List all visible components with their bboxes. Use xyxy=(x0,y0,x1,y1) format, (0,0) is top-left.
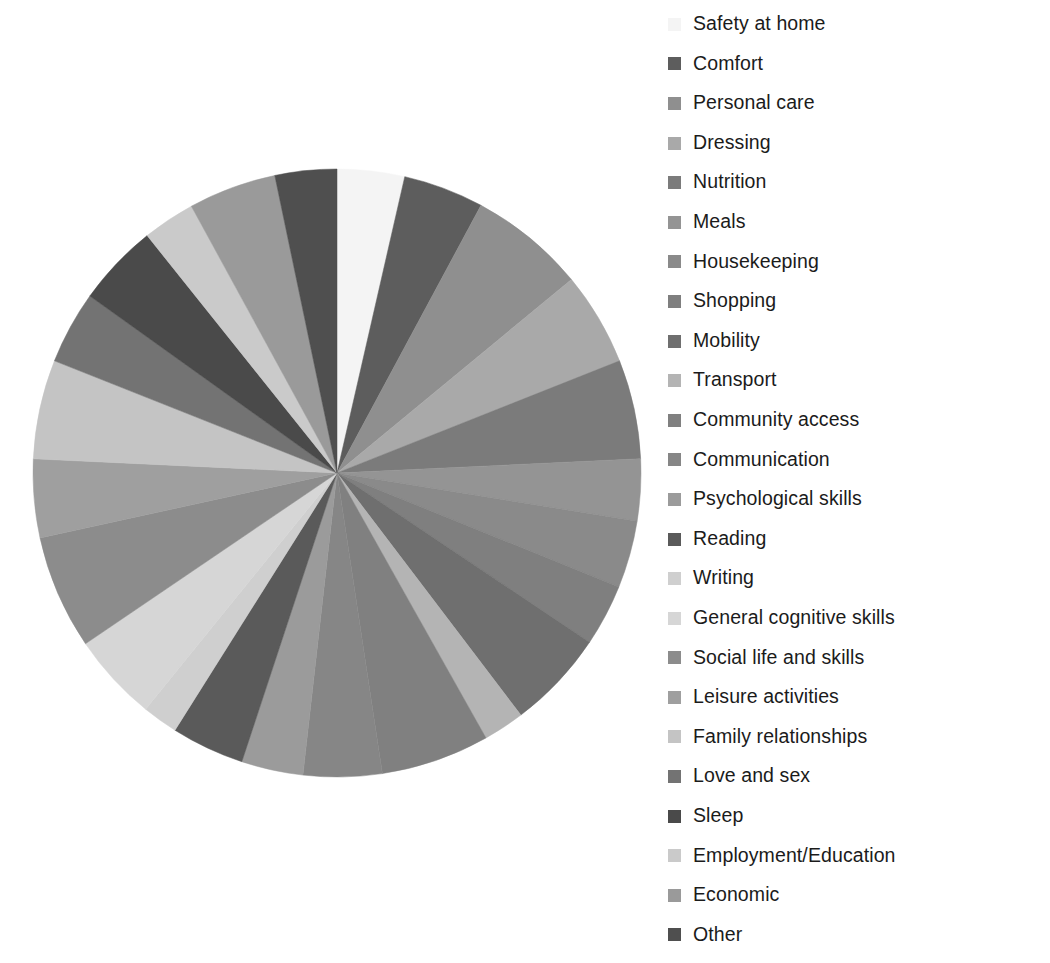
legend-item-label: Employment/Education xyxy=(693,846,896,866)
chart-legend: Safety at homeComfortPersonal careDressi… xyxy=(668,0,1038,963)
legend-item[interactable]: Employment/Education xyxy=(668,835,1038,875)
legend-item[interactable]: Mobility xyxy=(668,321,1038,361)
legend-item-label: Leisure activities xyxy=(693,687,839,707)
legend-item[interactable]: Communication xyxy=(668,440,1038,480)
legend-item-label: Dressing xyxy=(693,133,771,153)
legend-swatch-icon xyxy=(668,928,681,941)
legend-item-label: Reading xyxy=(693,529,766,549)
legend-swatch-icon xyxy=(668,612,681,625)
legend-item[interactable]: Dressing xyxy=(668,123,1038,163)
legend-item-label: Social life and skills xyxy=(693,648,864,668)
legend-item-label: Communication xyxy=(693,450,830,470)
legend-item-label: Writing xyxy=(693,568,754,588)
legend-item-label: Love and sex xyxy=(693,766,810,786)
legend-swatch-icon xyxy=(668,770,681,783)
legend-item-label: Comfort xyxy=(693,54,763,74)
legend-item[interactable]: Economic xyxy=(668,875,1038,915)
legend-item-label: Transport xyxy=(693,370,777,390)
legend-item-label: Psychological skills xyxy=(693,489,862,509)
legend-item[interactable]: General cognitive skills xyxy=(668,598,1038,638)
legend-item[interactable]: Sleep xyxy=(668,796,1038,836)
legend-item-label: Sleep xyxy=(693,806,743,826)
legend-item[interactable]: Reading xyxy=(668,519,1038,559)
legend-swatch-icon xyxy=(668,57,681,70)
legend-item[interactable]: Meals xyxy=(668,202,1038,242)
legend-swatch-icon xyxy=(668,691,681,704)
legend-swatch-icon xyxy=(668,295,681,308)
legend-swatch-icon xyxy=(668,533,681,546)
legend-item-label: Economic xyxy=(693,885,779,905)
legend-item[interactable]: Comfort xyxy=(668,44,1038,84)
legend-item-label: Other xyxy=(693,925,742,945)
legend-swatch-icon xyxy=(668,255,681,268)
legend-item[interactable]: Leisure activities xyxy=(668,677,1038,717)
legend-swatch-icon xyxy=(668,810,681,823)
legend-item-label: Family relationships xyxy=(693,727,867,747)
legend-item[interactable]: Housekeeping xyxy=(668,242,1038,282)
legend-item[interactable]: Shopping xyxy=(668,281,1038,321)
legend-swatch-icon xyxy=(668,137,681,150)
legend-item-label: Safety at home xyxy=(693,14,826,34)
legend-swatch-icon xyxy=(668,889,681,902)
legend-item[interactable]: Personal care xyxy=(668,83,1038,123)
legend-swatch-icon xyxy=(668,176,681,189)
legend-item[interactable]: Nutrition xyxy=(668,162,1038,202)
legend-item-label: Mobility xyxy=(693,331,760,351)
legend-item[interactable]: Other xyxy=(668,915,1038,955)
legend-swatch-icon xyxy=(668,216,681,229)
legend-swatch-icon xyxy=(668,493,681,506)
legend-item-label: Shopping xyxy=(693,291,776,311)
pie-chart-figure: Safety at homeComfortPersonal careDressi… xyxy=(0,0,1050,963)
legend-item[interactable]: Psychological skills xyxy=(668,479,1038,519)
legend-item-label: Personal care xyxy=(693,93,815,113)
legend-swatch-icon xyxy=(668,730,681,743)
legend-swatch-icon xyxy=(668,651,681,664)
legend-item[interactable]: Transport xyxy=(668,360,1038,400)
pie-slice-group xyxy=(33,169,641,777)
legend-item-label: Meals xyxy=(693,212,746,232)
legend-swatch-icon xyxy=(668,97,681,110)
legend-item[interactable]: Writing xyxy=(668,558,1038,598)
legend-swatch-icon xyxy=(668,849,681,862)
pie-chart-svg xyxy=(32,168,642,778)
legend-item[interactable]: Community access xyxy=(668,400,1038,440)
legend-swatch-icon xyxy=(668,335,681,348)
legend-item-label: Community access xyxy=(693,410,859,430)
legend-swatch-icon xyxy=(668,374,681,387)
legend-swatch-icon xyxy=(668,453,681,466)
legend-swatch-icon xyxy=(668,572,681,585)
legend-item-label: Housekeeping xyxy=(693,252,819,272)
legend-item-label: General cognitive skills xyxy=(693,608,895,628)
pie-chart-plot-area xyxy=(32,168,642,778)
legend-item[interactable]: Safety at home xyxy=(668,4,1038,44)
legend-swatch-icon xyxy=(668,18,681,31)
legend-item[interactable]: Love and sex xyxy=(668,756,1038,796)
legend-item[interactable]: Social life and skills xyxy=(668,638,1038,678)
legend-item[interactable]: Family relationships xyxy=(668,717,1038,757)
legend-item-label: Nutrition xyxy=(693,172,767,192)
legend-swatch-icon xyxy=(668,414,681,427)
